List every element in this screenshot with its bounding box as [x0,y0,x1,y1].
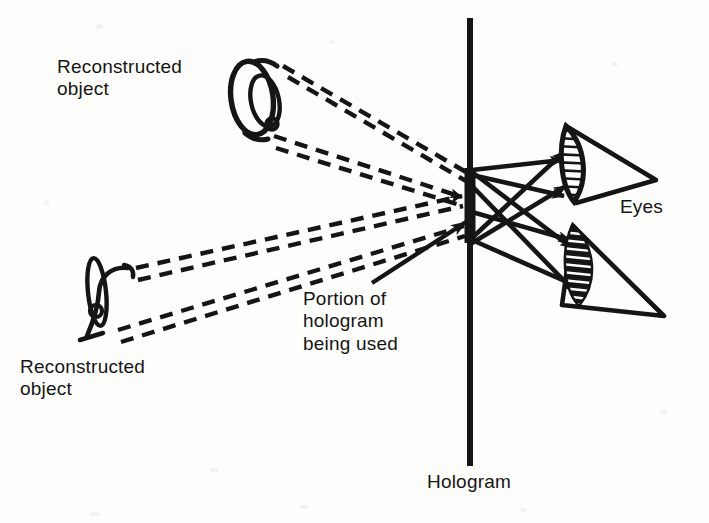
reconstructed-object-upper [226,58,284,139]
label-reconstructed-object-upper: Reconstructed object [57,56,182,101]
label-reconstructed-object-lower: Reconstructed object [20,356,145,401]
virtual-ray-bundle-lower-a [136,196,463,280]
label-eyes: Eyes [620,196,663,218]
virtual-ray-bundle-upper-a [283,66,466,181]
eye-lower [560,226,664,316]
eye-upper [554,126,656,203]
label-hologram: Hologram [427,471,511,493]
label-portion-of-hologram: Portion of hologram being used [303,288,398,355]
virtual-ray-bundle-upper-b [274,136,463,206]
hologram-reconstruction-figure: Reconstructed object Reconstructed objec… [0,0,709,523]
portion-callout-arrow [372,222,466,283]
